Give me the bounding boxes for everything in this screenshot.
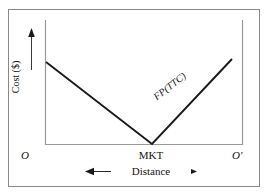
origin-label-left: O xyxy=(21,150,29,161)
y-axis-label: Cost ($) xyxy=(11,45,21,109)
figure-root: Cost ($) FP(TTC) O MKT O′ Distance xyxy=(0,0,270,196)
cost-axis-up-arrow-icon xyxy=(28,28,35,70)
mkt-tick-label: MKT xyxy=(115,150,187,161)
origin-label-right: O′ xyxy=(232,150,242,161)
x-axis-label: Distance xyxy=(111,166,191,177)
fp-ttc-curve xyxy=(46,59,232,144)
